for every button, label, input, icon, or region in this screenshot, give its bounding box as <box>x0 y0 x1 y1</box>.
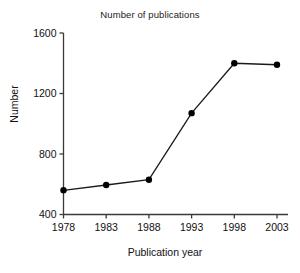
x-tick-label: 1993 <box>180 221 204 233</box>
y-tick-label: 1200 <box>33 87 57 99</box>
y-tick-label: 1600 <box>33 27 57 39</box>
plot-area: 40080012001600 197819831988199319982003 <box>0 0 300 273</box>
data-point <box>274 62 280 68</box>
x-tick-label: 1988 <box>137 221 161 233</box>
data-series-line <box>64 63 278 190</box>
y-tick-group: 40080012001600 <box>33 27 63 221</box>
data-point <box>103 182 109 188</box>
data-point <box>60 187 66 193</box>
x-tick-label: 1983 <box>95 221 119 233</box>
data-point <box>146 177 152 183</box>
data-series-markers <box>60 60 280 193</box>
x-tick-group: 197819831988199319982003 <box>52 215 289 233</box>
y-tick-label: 400 <box>39 208 57 220</box>
x-tick-label: 2003 <box>265 221 289 233</box>
data-point <box>188 110 194 116</box>
x-tick-label: 1978 <box>52 221 76 233</box>
x-tick-label: 1998 <box>223 221 247 233</box>
chart-figure: Number of publications Number Publicatio… <box>0 0 300 273</box>
y-tick-label: 800 <box>39 148 57 160</box>
data-point <box>231 60 237 66</box>
